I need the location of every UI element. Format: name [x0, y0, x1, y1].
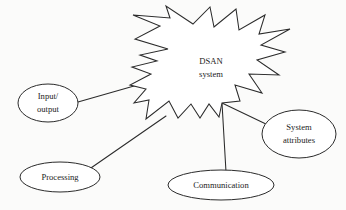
node-system-attributes[interactable]: System attributes — [262, 110, 336, 158]
diagram-canvas: DSAN system Input/ output Processing Com… — [0, 0, 346, 210]
diagram-svg: DSAN system Input/ output Processing Com… — [0, 0, 346, 210]
input-output-label-line1: Input/ — [38, 91, 59, 101]
system-attributes-label-line2: attributes — [283, 135, 316, 145]
connector-system-attributes-to-dsan — [222, 103, 268, 125]
connector-input-output-to-dsan — [78, 84, 141, 102]
node-input-output[interactable]: Input/ output — [18, 84, 78, 122]
node-communication[interactable]: Communication — [168, 170, 274, 200]
node-dsan-system[interactable]: DSAN system — [130, 6, 290, 119]
dsan-system-label-line1: DSAN — [199, 56, 223, 66]
system-attributes-label-line1: System — [286, 122, 312, 132]
communication-label: Communication — [193, 180, 249, 190]
node-processing[interactable]: Processing — [20, 162, 100, 192]
dsan-system-label-line2: system — [199, 69, 223, 79]
processing-label: Processing — [41, 172, 79, 182]
connector-processing-to-dsan — [88, 116, 166, 170]
input-output-label-line2: output — [37, 104, 60, 114]
connector-communication-to-dsan — [222, 103, 226, 172]
